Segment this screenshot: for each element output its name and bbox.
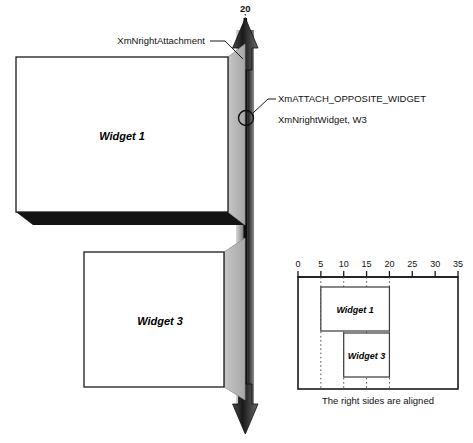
- inset-tick-label: 0: [295, 259, 300, 269]
- attach-opposite-widget-label: XmATTACH_OPPOSITE_WIDGET: [278, 93, 426, 104]
- widget-1-shadow: [16, 212, 245, 225]
- right-attachment-label: XmNrightAttachment: [117, 35, 205, 46]
- right-widget-label: XmNrightWidget, W3: [278, 114, 367, 125]
- reference-value-label: 20: [240, 3, 251, 14]
- inset-tick-label: 35: [453, 259, 463, 269]
- inset-tick-label: 15: [362, 259, 372, 269]
- inset-caption: The right sides are aligned: [322, 395, 434, 406]
- attach-point-leader-line: [253, 99, 268, 113]
- inset-widget-1-label: Widget 1: [336, 305, 373, 315]
- inset-tick-label: 10: [339, 259, 349, 269]
- widget-3-label: Widget 3: [137, 315, 183, 327]
- widget-3-side-face: [224, 238, 245, 400]
- inset-tick-marks: [298, 271, 458, 277]
- inset-tick-label: 20: [384, 259, 394, 269]
- inset-tick-label: 5: [318, 259, 323, 269]
- widget-1-label: Widget 1: [99, 130, 145, 142]
- diagram-canvas: 20 Widget 1 Widget 3 XmNrightAttachment: [0, 0, 473, 443]
- inset-widget-3-label: Widget 3: [348, 351, 385, 361]
- widget-1-side-face: [228, 44, 245, 225]
- inset-tick-label: 25: [407, 259, 417, 269]
- inset-diagram: 05101520253035 Widget 1Widget 3: [295, 259, 463, 389]
- inset-tick-label: 30: [430, 259, 440, 269]
- inset-tick-labels: 05101520253035: [295, 259, 463, 269]
- inset-bars: Widget 1Widget 3: [321, 287, 390, 377]
